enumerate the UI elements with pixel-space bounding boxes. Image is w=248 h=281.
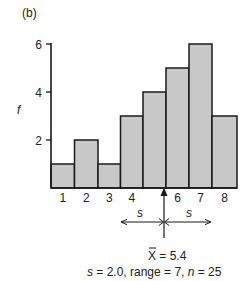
bar-1 bbox=[51, 164, 75, 188]
sd-label-right: s bbox=[186, 206, 192, 220]
x-tick-label: 2 bbox=[83, 191, 90, 205]
x-tick-label: 7 bbox=[197, 191, 204, 205]
sd-label-left: s bbox=[137, 206, 143, 220]
x-tick-label: 4 bbox=[128, 191, 135, 205]
bar-5 bbox=[143, 92, 166, 188]
summary-part-2: = 25 bbox=[194, 265, 221, 279]
x-tick-label: 6 bbox=[174, 191, 181, 205]
x-tick-labels-group: 1234678 bbox=[59, 191, 228, 205]
bar-6 bbox=[166, 68, 189, 188]
bar-8 bbox=[212, 116, 237, 188]
y-axis-label: f bbox=[17, 103, 22, 117]
y-tick-label: 6 bbox=[35, 38, 42, 52]
bar-7 bbox=[189, 44, 212, 188]
y-ticks-group: 246 bbox=[35, 38, 51, 148]
y-tick-label: 4 bbox=[35, 86, 42, 100]
histogram-chart: (b) f 246 1234678 s s X = 5.4 s = 2.0, r… bbox=[0, 0, 248, 281]
bar-4 bbox=[121, 116, 144, 188]
bar-3 bbox=[98, 164, 121, 188]
mean-label: X = 5.4 bbox=[148, 249, 187, 263]
x-tick-label: 3 bbox=[106, 191, 113, 205]
bars-group bbox=[51, 44, 237, 188]
x-tick-label: 1 bbox=[59, 191, 66, 205]
panel-label: (b) bbox=[22, 6, 37, 20]
y-tick-label: 2 bbox=[35, 134, 42, 148]
x-tick-label: 8 bbox=[221, 191, 228, 205]
summary-stats: s = 2.0, range = 7, n = 25 bbox=[87, 265, 222, 279]
summary-part-1: = 2.0, range = 7, bbox=[93, 265, 188, 279]
bar-2 bbox=[75, 140, 99, 188]
